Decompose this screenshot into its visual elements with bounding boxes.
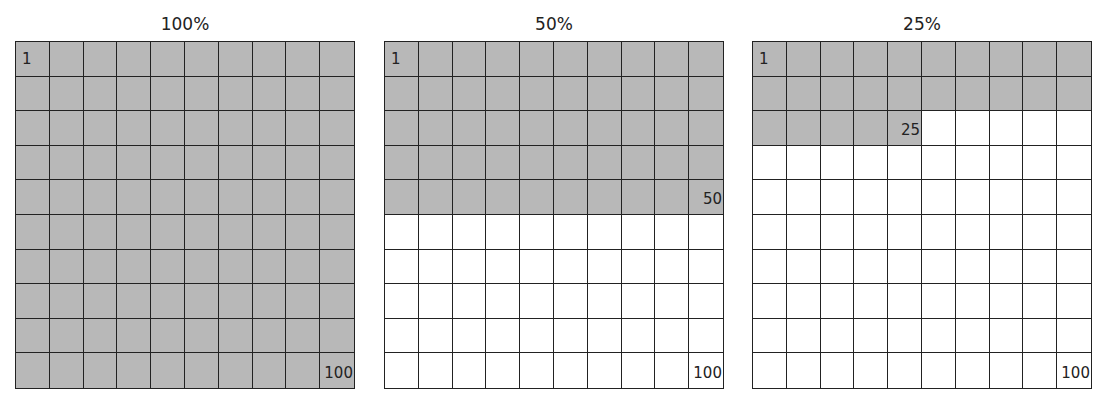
empty-cell [922, 319, 956, 354]
empty-cell [588, 284, 622, 319]
shaded-cell [84, 146, 118, 181]
shaded-cell [50, 111, 84, 146]
shaded-cell [821, 77, 855, 112]
empty-cell [1023, 146, 1057, 181]
shaded-cell [520, 146, 554, 181]
shaded-cell [486, 180, 520, 215]
empty-cell [453, 353, 487, 388]
shaded-cell [50, 353, 84, 388]
empty-cell [854, 146, 888, 181]
shaded-cell [185, 180, 219, 215]
shaded-cell [50, 250, 84, 285]
shaded-cell [253, 319, 287, 354]
shaded-cell [151, 250, 185, 285]
empty-cell [655, 284, 689, 319]
shaded-cell [16, 250, 50, 285]
cell-number-label: 50 [703, 190, 722, 208]
shaded-cell [286, 180, 320, 215]
empty-cell [753, 215, 787, 250]
shaded-cell [286, 146, 320, 181]
empty-cell [689, 284, 723, 319]
shaded-cell [219, 146, 253, 181]
empty-cell [990, 215, 1024, 250]
empty-cell [990, 180, 1024, 215]
shaded-cell [787, 111, 821, 146]
shaded-cell [151, 180, 185, 215]
shaded-cell [956, 77, 990, 112]
empty-cell [854, 353, 888, 388]
shaded-cell [219, 111, 253, 146]
shaded-cell [419, 146, 453, 181]
empty-cell [689, 250, 723, 285]
empty-cell [1057, 319, 1091, 354]
shaded-cell [117, 111, 151, 146]
shaded-cell [16, 180, 50, 215]
shaded-cell [385, 77, 419, 112]
empty-cell [1023, 111, 1057, 146]
cell-number-label: 100 [1061, 364, 1090, 382]
shaded-cell [419, 111, 453, 146]
shaded-cell [16, 215, 50, 250]
empty-cell [1057, 180, 1091, 215]
shaded-cell [622, 77, 656, 112]
empty-cell [622, 353, 656, 388]
shaded-cell [84, 215, 118, 250]
empty-cell [821, 146, 855, 181]
empty-cell [753, 180, 787, 215]
empty-cell [922, 180, 956, 215]
shaded-cell [520, 77, 554, 112]
empty-cell [821, 353, 855, 388]
empty-cell [520, 215, 554, 250]
empty-cell [453, 284, 487, 319]
empty-cell [956, 353, 990, 388]
shaded-cell [320, 111, 354, 146]
shaded-cell [486, 111, 520, 146]
shaded-cell [253, 146, 287, 181]
shaded-cell [117, 42, 151, 77]
shaded-cell [787, 42, 821, 77]
shaded-cell [253, 42, 287, 77]
shaded-cell [151, 42, 185, 77]
empty-cell [956, 215, 990, 250]
empty-cell [419, 319, 453, 354]
shaded-cell [117, 319, 151, 354]
empty-cell [453, 319, 487, 354]
empty-cell [753, 146, 787, 181]
empty-cell [486, 215, 520, 250]
shaded-cell: 50 [689, 180, 723, 215]
shaded-cell [286, 319, 320, 354]
shaded-cell [185, 353, 219, 388]
empty-cell [888, 250, 922, 285]
shaded-cell [320, 284, 354, 319]
empty-cell [888, 146, 922, 181]
empty-cell [588, 319, 622, 354]
shaded-cell [50, 180, 84, 215]
shaded-cell [1057, 77, 1091, 112]
empty-cell [753, 319, 787, 354]
empty-cell [453, 215, 487, 250]
shaded-cell [219, 180, 253, 215]
empty-cell [888, 180, 922, 215]
empty-cell [1057, 111, 1091, 146]
empty-cell [990, 111, 1024, 146]
shaded-cell [622, 42, 656, 77]
shaded-cell [151, 353, 185, 388]
hundred-grid: 1100 [15, 41, 355, 389]
shaded-cell [385, 111, 419, 146]
shaded-cell [253, 284, 287, 319]
shaded-cell [453, 77, 487, 112]
shaded-cell: 1 [385, 42, 419, 77]
empty-cell [956, 284, 990, 319]
shaded-cell [888, 42, 922, 77]
empty-cell [854, 284, 888, 319]
shaded-cell [286, 77, 320, 112]
shaded-cell: 1 [16, 42, 50, 77]
empty-cell [385, 353, 419, 388]
shaded-cell [219, 77, 253, 112]
empty-cell [990, 319, 1024, 354]
empty-cell [520, 353, 554, 388]
shaded-cell: 25 [888, 111, 922, 146]
shaded-cell [219, 319, 253, 354]
shaded-cell [286, 250, 320, 285]
shaded-cell [84, 111, 118, 146]
